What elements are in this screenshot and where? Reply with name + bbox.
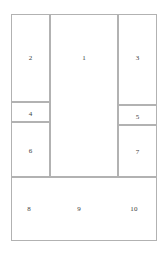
region-box-1: 1 (50, 14, 118, 177)
region-label-2: 2 (12, 55, 49, 62)
region-label-9: 9 (77, 206, 81, 213)
region-box-3: 3 (118, 14, 157, 105)
layout-diagram-canvas: 1 2 3 4 5 6 7 8 9 10 (0, 0, 167, 255)
region-box-7: 7 (118, 125, 157, 177)
region-box-6: 6 (11, 122, 50, 177)
region-label-5: 5 (119, 114, 156, 121)
region-label-8: 8 (27, 206, 31, 213)
region-box-5: 5 (118, 105, 157, 125)
region-label-4: 4 (12, 111, 49, 118)
region-label-10: 10 (130, 206, 137, 213)
region-label-7: 7 (119, 149, 156, 156)
region-box-2: 2 (11, 14, 50, 102)
region-label-3: 3 (119, 55, 156, 62)
region-label-6: 6 (12, 148, 49, 155)
region-box-4: 4 (11, 102, 50, 122)
region-box-bottom-band: 8 9 10 (11, 177, 157, 241)
region-label-1: 1 (51, 55, 117, 62)
